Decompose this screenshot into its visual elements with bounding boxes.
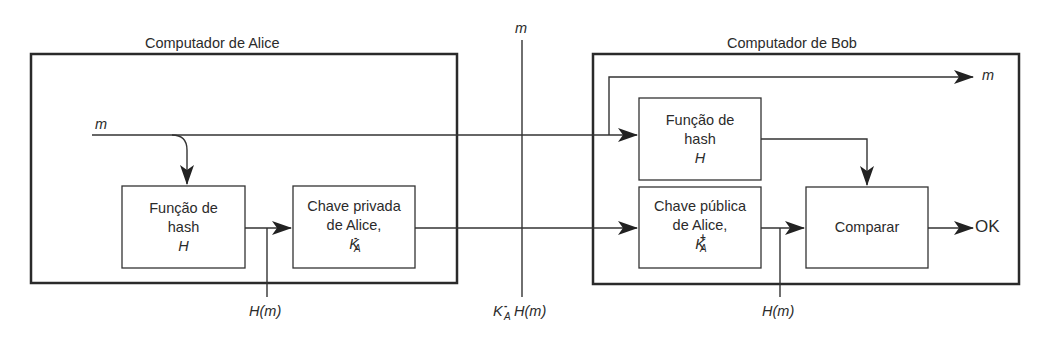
bob-public-key-box-label: Chave pública de Alice, K+A — [639, 185, 761, 266]
private-key-symbol: K-A — [343, 235, 365, 254]
bob-hash-to-compare — [761, 139, 867, 185]
alice-private-key-box-label: Chave privada de Alice, K-A — [293, 184, 415, 266]
diagram-lines — [0, 0, 1047, 348]
alice-computer-title: Computador de Alice — [145, 35, 280, 52]
public-key-symbol: K+A — [689, 235, 711, 254]
alice-branch-to-hash — [172, 135, 187, 184]
bob-hash-box-label: Função de hash H — [639, 98, 761, 180]
alice-hash-box-label: Função de hash H — [122, 186, 245, 268]
channel-message-label: m — [515, 20, 527, 37]
bob-hm-label: H(m) — [762, 303, 794, 320]
channel-signed-hash-label: K-AH(m) — [493, 303, 546, 320]
bob-computer-title: Computador de Bob — [727, 35, 857, 52]
bob-compare-box-label: Comparar — [806, 187, 928, 268]
result-ok-label: OK — [975, 218, 1000, 235]
alice-message-label: m — [95, 116, 107, 133]
bob-message-output-label: m — [982, 67, 994, 84]
alice-hm-label: H(m) — [249, 303, 281, 320]
